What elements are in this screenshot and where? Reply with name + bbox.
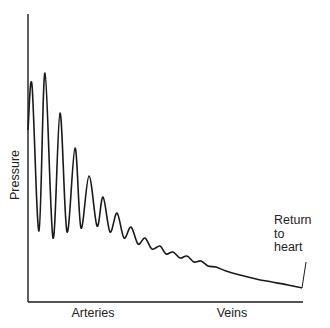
annotation-line-3: heart — [274, 241, 312, 255]
y-axis-label: Pressure — [8, 150, 22, 200]
return-to-heart-annotation: Return to heart — [274, 214, 312, 255]
annotation-line-1: Return — [274, 214, 312, 228]
annotation-leader-line — [302, 262, 306, 288]
x-label-arteries: Arteries — [71, 306, 114, 320]
annotation-line-2: to — [274, 228, 312, 242]
x-label-veins: Veins — [217, 306, 248, 320]
pressure-curve — [28, 73, 302, 288]
pressure-chart — [0, 0, 330, 328]
